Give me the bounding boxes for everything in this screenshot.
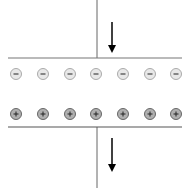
positive-charge-icon [11,109,22,120]
arrow-top-icon [108,22,116,53]
negative-charge-icon [171,69,182,80]
negative-charge-icon [118,69,129,80]
positive-charge-icon [171,109,182,120]
negative-charge-icon [11,69,22,80]
negative-charge-icon [38,69,49,80]
negative-charge-icon [65,69,76,80]
negative-charges [11,69,182,80]
positive-charge-icon [65,109,76,120]
negative-charge-icon [145,69,156,80]
positive-charge-icon [145,109,156,120]
positive-charge-icon [91,109,102,120]
positive-charges [11,109,182,120]
charge-diagram [0,0,189,188]
positive-charge-icon [38,109,49,120]
positive-charge-icon [118,109,129,120]
arrow-bottom-icon [108,138,116,172]
negative-charge-icon [91,69,102,80]
